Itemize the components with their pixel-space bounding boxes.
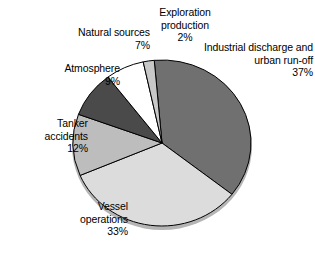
- slice-label-exploration-production: Exploration production 2%: [142, 6, 228, 44]
- slice-label-tanker-accidents: Tanker accidents 12%: [2, 117, 88, 155]
- pie-chart-figure: Industrial discharge and urban run-off 3…: [0, 0, 315, 259]
- slice-label-natural-sources: Natural sources 7%: [40, 26, 150, 51]
- slice-label-atmosphere: Atmosphere 9%: [16, 62, 120, 87]
- slice-label-vessel-operations: Vessel operations 33%: [30, 200, 128, 238]
- slice-label-industrial-discharge: Industrial discharge and urban run-off 3…: [176, 41, 313, 79]
